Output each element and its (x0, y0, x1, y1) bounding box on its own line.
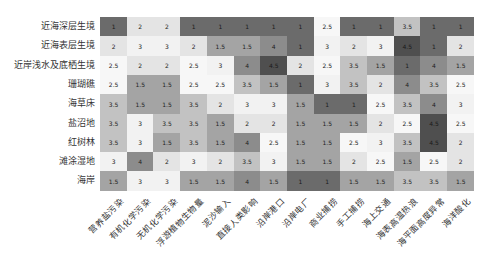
heatmap-cell: 2 (447, 36, 474, 56)
heatmap-cell: 1.5 (447, 56, 474, 76)
heatmap-cell: 1.5 (260, 75, 287, 95)
heatmap-cell: 3.5 (394, 133, 421, 153)
heatmap-cell: 3 (207, 56, 234, 76)
heatmap-cell: 1 (420, 36, 447, 56)
heatmap-cell: 4 (127, 152, 154, 172)
heatmap-cell: 1.5 (367, 56, 394, 76)
heatmap-cell: 3.5 (100, 114, 127, 134)
row-label: 盐沼地 (68, 114, 95, 133)
heatmap-cell: 1 (287, 75, 314, 95)
heatmap-cell: 1 (234, 17, 261, 37)
heatmap-cell: 2.5 (367, 152, 394, 172)
heatmap-cell: 2.5 (367, 94, 394, 114)
heatmap-cell: 3.5 (234, 152, 261, 172)
heatmap-cell: 3 (127, 114, 154, 134)
heatmap-cell: 2 (367, 114, 394, 134)
heatmap-cell: 1.5 (340, 171, 367, 191)
heatmap-cell: 3 (367, 36, 394, 56)
heatmap-cell: 2.5 (100, 75, 127, 95)
heatmap-cell: 2 (180, 36, 207, 56)
heatmap-cell: 2.5 (260, 133, 287, 153)
heatmap-cell: 1.5 (287, 94, 314, 114)
column-label: 海洋酸化 (439, 195, 473, 229)
heatmap-cell: 1 (287, 17, 314, 37)
heatmap-cell: 1.5 (367, 171, 394, 191)
heatmap-cell: 2.5 (447, 114, 474, 134)
heatmap-cell: 4 (420, 94, 447, 114)
heatmap-cell: 1.5 (100, 171, 127, 191)
heatmap-cell: 1.5 (234, 36, 261, 56)
heatmap-cell: 4 (260, 36, 287, 56)
heatmap-cell: 4 (234, 56, 261, 76)
heatmap-cell: 1.5 (153, 94, 180, 114)
heatmap-cell: 2.5 (180, 75, 207, 95)
heatmap-cell: 3 (314, 36, 341, 56)
row-label: 近海表层生境 (41, 36, 95, 55)
heatmap-cell: 1 (180, 17, 207, 37)
heatmap-cell: 3 (447, 94, 474, 114)
heatmap-cell: 2.5 (340, 133, 367, 153)
heatmap-cell: 2.5 (394, 114, 421, 134)
heatmap-cell: 2 (234, 114, 261, 134)
heatmap-cell: 1 (314, 94, 341, 114)
heatmap-cell: 3.5 (100, 133, 127, 153)
heatmap-cell: 3 (153, 36, 180, 56)
heatmap-cell: 1 (287, 36, 314, 56)
heatmap-cell: 1.5 (314, 133, 341, 153)
heatmap-cell: 1 (287, 171, 314, 191)
heatmap-cell: 3 (260, 94, 287, 114)
heatmap-cell: 2 (153, 152, 180, 172)
heatmap-cell: 2.5 (314, 56, 341, 76)
heatmap-cell: 3.5 (180, 133, 207, 153)
heatmap-cell: 3.5 (180, 94, 207, 114)
heatmap-cell: 1.5 (207, 171, 234, 191)
heatmap-cell: 3 (127, 133, 154, 153)
row-label: 海草床 (68, 94, 95, 113)
heatmap-cell: 3.5 (234, 75, 261, 95)
heatmap-cell: 3 (180, 152, 207, 172)
heatmap-cell: 1 (340, 17, 367, 37)
heatmap-cell: 2 (127, 56, 154, 76)
heatmap-cell: 2 (447, 152, 474, 172)
row-label: 珊瑚礁 (68, 75, 95, 94)
heatmap-cell: 1.5 (287, 133, 314, 153)
heatmap-cell: 3 (367, 133, 394, 153)
heatmap-cell: 3.5 (153, 114, 180, 134)
heatmap-cell: 1.5 (207, 114, 234, 134)
heatmap-cell: 2.5 (447, 75, 474, 95)
heatmap-cell: 1 (260, 17, 287, 37)
heatmap-cell: 3 (234, 94, 261, 114)
heatmap-cell: 3.5 (340, 56, 367, 76)
heatmap-cell: 1.5 (314, 152, 341, 172)
heatmap-cell: 4.5 (420, 133, 447, 153)
heatmap-cell: 2 (153, 56, 180, 76)
column-label: 商业捕捞 (305, 195, 339, 229)
heatmap-cell: 1.5 (207, 36, 234, 56)
heatmap-cell: 1 (207, 17, 234, 37)
heatmap-cell: 4.5 (394, 36, 421, 56)
heatmap-cell: 3.5 (100, 94, 127, 114)
heatmap-cell: 1 (447, 17, 474, 37)
heatmap-cell: 1.5 (153, 133, 180, 153)
heatmap-cell: 1 (420, 17, 447, 37)
heatmap-cell: 2 (447, 133, 474, 153)
heatmap-cell: 1.5 (394, 152, 421, 172)
heatmap-cell: 4 (420, 56, 447, 76)
heatmap-cell: 1 (394, 56, 421, 76)
heatmap-cell: 1.5 (153, 75, 180, 95)
heatmap-cell: 1.5 (287, 114, 314, 134)
heatmap-cell: 2.5 (420, 152, 447, 172)
heatmap-cell: 4 (394, 75, 421, 95)
heatmap-cell: 4 (234, 171, 261, 191)
heatmap-cell: 1.5 (314, 114, 341, 134)
heatmap-cell: 2 (100, 36, 127, 56)
heatmap-cell: 2 (260, 114, 287, 134)
heatmap-cell: 1.5 (180, 171, 207, 191)
heatmap-cell: 4.5 (420, 114, 447, 134)
heatmap-cell: 1 (314, 171, 341, 191)
heatmap-cell: 1.5 (260, 171, 287, 191)
heatmap-cell: 3.5 (420, 75, 447, 95)
heatmap-cell: 3.5 (394, 171, 421, 191)
heatmap-cell: 2.5 (207, 75, 234, 95)
heatmap-cell: 1.5 (340, 114, 367, 134)
